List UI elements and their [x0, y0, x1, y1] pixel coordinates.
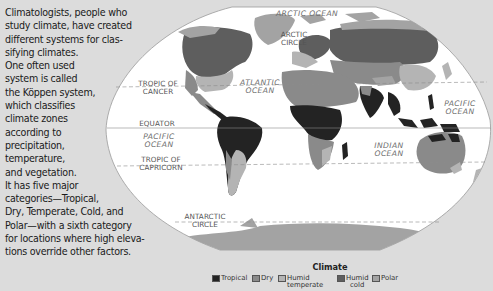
intro-line: which classifies [5, 99, 205, 112]
legend-swatch [278, 275, 286, 282]
intro-line: One often used [5, 59, 205, 72]
intro-line: sifying climates. [5, 46, 205, 59]
intro-line: for locations where high eleva- [5, 232, 205, 245]
label-pacific-ocean-west: PACIFIC OCEAN [136, 133, 182, 149]
label-pacific-ocean-east: PACIFIC OCEAN [437, 100, 483, 116]
intro-line: It has five major [5, 179, 205, 192]
intro-line: different systems for clas- [5, 33, 205, 46]
legend-swatch [252, 275, 260, 282]
label-arctic-ocean: ARCTIC OCEAN [276, 10, 338, 18]
label-tropic-of-cancer: TROPIC OF CANCER [133, 80, 183, 96]
intro-line: Dry, Temperate, Cold, and [5, 205, 205, 218]
label-tropic-of-capricorn: TROPIC OF CAPRICORN [136, 156, 186, 172]
intro-line: Polar—with a sixth category [5, 219, 205, 232]
label-antarctic-circle: ANTARCTIC CIRCLE [180, 213, 230, 229]
legend-swatch [337, 275, 345, 282]
intro-line: Climatologists, people who [5, 6, 205, 19]
intro-line: study climate, have created [5, 19, 205, 32]
label-arctic-circle: ARCTIC CIRCLE [276, 31, 312, 47]
label-equator: EQUATOR [134, 120, 180, 128]
legend-title: Climate [300, 262, 360, 272]
intro-line: tions override other factors. [5, 245, 205, 258]
label-indian-ocean: INDIAN OCEAN [366, 142, 412, 158]
legend-swatch [372, 275, 380, 282]
legend-swatch [212, 275, 220, 282]
intro-line: categories—Tropical, [5, 192, 205, 205]
label-atlantic-ocean: ATLANTIC OCEAN [235, 79, 285, 95]
